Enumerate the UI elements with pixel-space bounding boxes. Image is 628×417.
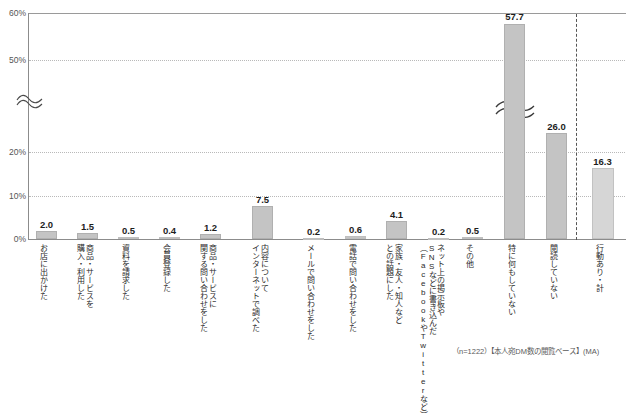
bar-5[interactable]: [252, 206, 273, 239]
value-label-5: 7.5: [245, 194, 280, 205]
category-label-1: 商品・サービスを 購入・利用した: [75, 244, 92, 349]
bar-11[interactable]: [504, 24, 525, 239]
y-tick-20: 20%: [0, 147, 26, 157]
total-separator: [576, 14, 577, 240]
gridline-10: [29, 196, 625, 197]
axis-break-squiggle-yaxis: [16, 94, 44, 114]
value-label-1: 1.5: [70, 221, 105, 232]
bar-0[interactable]: [36, 231, 57, 239]
value-label-12: 26.0: [538, 121, 575, 132]
category-label-8: 家族・友人・知人など との話題にした: [384, 244, 401, 349]
value-label-2: 0.5: [111, 225, 146, 236]
category-label-10: その他: [464, 244, 473, 349]
bar-7[interactable]: [345, 236, 366, 239]
bar-4[interactable]: [200, 234, 221, 239]
value-label-7: 0.6: [338, 224, 373, 235]
value-label-4: 1.2: [193, 222, 228, 233]
bar-13[interactable]: [592, 168, 614, 239]
category-label-6: メールで問い合わせをした: [305, 244, 314, 349]
category-label-0: お店に出かけた: [38, 244, 47, 349]
y-tick-10: 10%: [0, 191, 26, 201]
category-label-3: 会員登録した: [161, 244, 170, 349]
bar-3[interactable]: [159, 237, 180, 239]
bar-9[interactable]: [428, 238, 449, 240]
category-label-2: 資料を請求した: [120, 244, 129, 349]
value-label-3: 0.4: [152, 225, 187, 236]
y-tick-0: 0%: [0, 234, 26, 244]
value-label-13: 16.3: [584, 156, 621, 167]
value-label-11: 57.7: [496, 11, 533, 22]
value-label-10: 0.5: [455, 225, 490, 236]
category-label-12: 閲読していない: [548, 244, 557, 349]
category-label-13: 行動あり・計: [594, 244, 603, 349]
category-label-4: 商品・サービスに 関する問い合わせをした: [198, 244, 215, 349]
gridline-50: [29, 60, 625, 61]
x-axis-baseline: [28, 239, 626, 240]
bar-1[interactable]: [77, 233, 98, 239]
bar-8[interactable]: [386, 221, 407, 239]
category-label-7: 電話で問い合わせをした: [347, 244, 356, 349]
category-label-9: ネット上の掲示板や SNSなどに書き込んだ （FacebookやTwitterな…: [418, 244, 444, 349]
category-label-11: 特に何もしていない: [506, 244, 515, 349]
bar-2[interactable]: [118, 237, 139, 239]
chart-footnote: （n=1222）【本人宛DM数の閲覧ベース】(MA): [452, 345, 599, 356]
bar-12[interactable]: [546, 133, 567, 239]
y-tick-60: 60%: [0, 8, 26, 18]
category-label-5: 内容について インターネットで調べた: [250, 244, 267, 349]
value-label-9: 0.2: [421, 226, 456, 237]
bar-10[interactable]: [462, 237, 483, 239]
gridline-20: [29, 152, 625, 153]
value-label-0: 2.0: [29, 219, 64, 230]
value-label-8: 4.1: [379, 209, 414, 220]
value-label-6: 0.2: [296, 226, 331, 237]
y-tick-50: 50%: [0, 55, 26, 65]
bar-6[interactable]: [303, 238, 324, 240]
